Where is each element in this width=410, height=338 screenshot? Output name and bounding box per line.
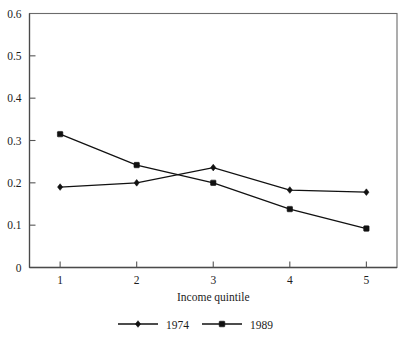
legend-entry-1974[interactable]: 1974 (118, 319, 189, 331)
x-tick-label: 5 (364, 274, 370, 286)
data-point-1989-1 (57, 131, 62, 136)
y-tick-label: 0.1 (7, 219, 22, 231)
x-axis-title: Income quintile (177, 291, 250, 304)
y-tick-label: 0 (16, 262, 22, 274)
data-point-1974-5 (364, 189, 369, 196)
data-point-1989-2 (134, 162, 139, 167)
data-point-1974-4 (287, 187, 292, 194)
data-point-1974-1 (58, 184, 63, 191)
x-tick-label: 3 (210, 274, 216, 286)
y-tick-label: 0.3 (7, 135, 22, 147)
y-tick-label: 0.4 (7, 92, 22, 104)
data-point-1989-5 (364, 226, 369, 231)
legend-marker-diamond (135, 321, 140, 328)
legend-entry-1989[interactable]: 1989 (202, 319, 273, 331)
data-point-1989-4 (287, 206, 292, 211)
y-tick-label: 0.2 (7, 177, 22, 189)
legend-label-1974: 1974 (166, 319, 189, 331)
x-tick-label: 4 (287, 274, 293, 286)
x-tick-label: 1 (57, 274, 63, 286)
chart-canvas: 00.10.20.30.40.50.612345Income quintile1… (0, 0, 410, 338)
x-tick-label: 2 (134, 274, 140, 286)
plot-frame (30, 14, 398, 268)
legend-label-1989: 1989 (250, 319, 273, 331)
y-tick-label: 0.5 (7, 50, 22, 62)
data-point-1974-2 (134, 180, 139, 187)
legend-marker-square (219, 321, 225, 327)
data-point-1974-3 (211, 164, 216, 171)
line-chart: 00.10.20.30.40.50.612345Income quintile1… (0, 0, 410, 338)
y-tick-label: 0.6 (7, 8, 22, 20)
data-point-1989-3 (211, 180, 216, 185)
